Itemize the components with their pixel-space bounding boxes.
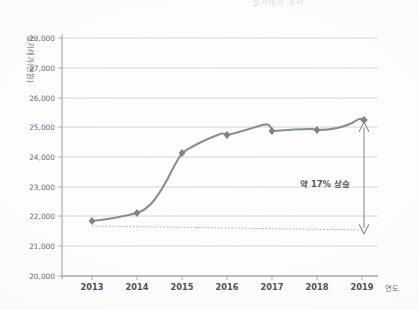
data-point-2019[interactable] <box>360 116 368 124</box>
y-tick-marks <box>58 38 62 276</box>
percent-increase-arrow <box>359 122 369 234</box>
data-point-markers <box>89 116 368 225</box>
x-tick-label: 2016 <box>216 282 239 292</box>
x-tick-label: 2015 <box>171 282 194 292</box>
y-tick-label: 20,000 <box>29 272 55 281</box>
line-chart: 28,000 27,000 26,000 25,000 24,000 23,00… <box>0 0 419 310</box>
annotation-label: 약 17% 상승 <box>300 179 350 189</box>
y-tick-label: 25,000 <box>29 123 55 132</box>
chart-screenshot: 실거래가 추이 <box>0 0 419 310</box>
x-tick-label: 2014 <box>126 282 149 292</box>
y-axis-title: 실거래가(만원) <box>26 35 35 83</box>
y-tick-label: 23,000 <box>29 183 55 192</box>
y-tick-label: 26,000 <box>29 94 55 103</box>
x-axis-title: 연도 <box>385 284 399 293</box>
gridlines <box>62 38 378 276</box>
x-tick-marks <box>92 276 362 280</box>
x-tick-label: 2018 <box>306 282 329 292</box>
data-point-2016[interactable] <box>224 131 231 139</box>
x-tick-label: 2019 <box>351 282 374 292</box>
x-tick-label: 2017 <box>261 282 284 292</box>
baseline-dotted-line <box>92 226 364 230</box>
y-tick-label: 21,000 <box>29 242 55 251</box>
y-tick-label: 22,000 <box>29 212 55 221</box>
y-tick-label: 24,000 <box>29 153 55 162</box>
x-tick-label: 2013 <box>81 282 104 292</box>
data-point-2013[interactable] <box>89 217 96 225</box>
data-point-2017[interactable] <box>269 127 276 135</box>
